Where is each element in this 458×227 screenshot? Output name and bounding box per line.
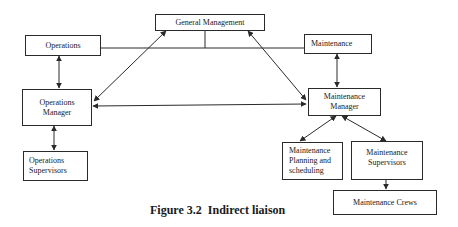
node-general-management: General Management [155,14,265,31]
node-label-line-1: Operations [39,98,74,108]
node-operations-supervisors: Operations Supervisors [23,151,88,181]
maintmgr-maintsup-arrow [342,116,386,141]
node-maintenance-crews: Maintenance Crews [333,190,437,215]
figure-title: Indirect liaison [208,203,285,217]
node-maintenance-supervisors: Maintenance Supervisors [351,141,423,180]
figure-number: Figure 3.2 [150,203,202,217]
opsmgr-maintmgr-arrow [93,104,306,106]
node-label-line-2: Planning and [289,156,331,166]
node-operations: Operations [25,35,101,56]
node-label-line-2: Supervisors [29,166,67,176]
node-label-line-2: Supervisors [368,158,406,168]
node-label: Maintenance [311,39,352,49]
node-label: Maintenance Crews [353,198,417,208]
maintmgr-planning-arrow [300,116,336,141]
figure-caption: Figure 3.2Indirect liaison [150,203,285,218]
node-label-line-1: Maintenance [289,146,330,156]
node-maintenance: Maintenance [304,34,372,54]
node-label: General Management [175,18,244,28]
node-label-line-2: Manager [43,108,71,118]
node-label-line-3: scheduling [289,166,324,176]
node-label-line-1: Maintenance [366,148,407,158]
node-maintenance-manager: Maintenance Manager [308,88,381,116]
node-maintenance-planning: Maintenance Planning and scheduling [282,142,343,180]
node-label-line-1: Operations [29,156,64,166]
node-operations-manager: Operations Manager [22,89,92,126]
node-label: Operations [45,41,80,51]
node-label-line-1: Maintenance [324,92,365,102]
node-label-line-2: Manager [330,102,358,112]
gm-maintmgr-arrow [248,31,306,100]
gm-opsmgr-arrow [94,31,166,101]
